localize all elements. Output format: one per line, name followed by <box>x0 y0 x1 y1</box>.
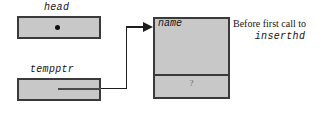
caption-line-2-function-name: inserthd <box>233 30 327 43</box>
arrow-head-icon <box>143 22 153 32</box>
tempptr-pointer-stub-line <box>58 88 101 90</box>
head-variable-label: head <box>44 2 69 13</box>
node-field-divider <box>153 74 230 76</box>
caption-line-1: Before first call to <box>233 18 327 30</box>
connector-segment-vertical <box>126 27 127 89</box>
caption: Before first call to inserthd <box>233 18 327 43</box>
node-name-field-label: name <box>158 18 182 29</box>
tempptr-variable-label: tempptr <box>30 64 74 75</box>
connector-segment-horizontal-upper <box>126 26 144 28</box>
node-next-field-value: ? <box>153 78 230 88</box>
linked-list-diagram: head tempptr name ? Before first call to… <box>0 0 328 113</box>
connector-segment-horizontal-lower <box>101 88 127 89</box>
head-pointer-dot-icon <box>55 25 60 30</box>
